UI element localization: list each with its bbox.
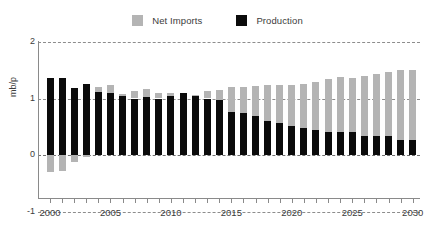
x-tick-2007 [135,198,136,203]
bar-column [349,41,356,211]
bar-segment-production [397,140,404,155]
bar-segment-net-imports [325,79,332,132]
bar-column [312,41,319,211]
bar-segment-production [337,132,344,155]
chart-canvas: Net Imports Production mb/p 210-1 200020… [0,0,435,225]
x-tick-2008 [147,198,148,203]
bar-segment-production [47,78,54,155]
x-tick-label-2005: 2005 [100,207,121,218]
bar-segment-net-imports [264,85,271,121]
legend-label-net-imports: Net Imports [152,15,202,26]
bar-column [325,41,332,211]
legend-swatch-net-imports [132,15,143,26]
x-tick-2001 [62,198,63,203]
bar-segment-production [216,100,223,155]
legend-entry-net-imports: Net Imports [132,15,202,26]
bar-segment-production [167,96,174,155]
bar-column [107,41,114,211]
bar-segment-net-imports [312,82,319,130]
x-tick-2002 [74,198,75,203]
bar-series-group [38,41,420,211]
chart-legend: Net Imports Production [0,10,435,30]
bar-segment-production [325,132,332,155]
bar-segment-net-imports [143,89,150,97]
bar-segment-net-imports [373,74,380,136]
bar-column [288,41,295,211]
bar-column [240,41,247,211]
bar-segment-net-imports [71,155,78,162]
bar-column [385,41,392,211]
bar-segment-net-imports [385,72,392,136]
bar-column [397,41,404,211]
bar-segment-net-imports [119,94,126,96]
bar-segment-net-imports [167,93,174,95]
bar-segment-net-imports [337,77,344,132]
x-tick-2017 [256,198,257,203]
bar-column [167,41,174,211]
x-tick-2029 [401,198,402,203]
bar-column [300,41,307,211]
y-tick-label-2: 2 [24,37,35,46]
bar-segment-net-imports [59,155,66,171]
bar-segment-net-imports [216,90,223,100]
bar-segment-production [204,99,211,156]
bar-segment-production [288,126,295,155]
x-tick-2021 [304,198,305,203]
x-tick-2015 [231,198,232,203]
bar-segment-production [180,93,187,155]
bar-segment-net-imports [288,85,295,126]
bar-segment-production [276,123,283,155]
bar-segment-net-imports [228,87,235,112]
bar-column [155,41,162,211]
bar-segment-net-imports [107,85,114,93]
plot-area: mb/p 210-1 2000200520102015202020252030 [38,41,420,211]
x-tick-2030 [413,198,414,203]
x-tick-2018 [268,198,269,203]
bar-segment-production [192,95,199,155]
bar-segment-production [143,97,150,155]
x-tick-2004 [98,198,99,203]
y-tick-label-1: 1 [24,94,35,103]
bar-segment-net-imports [155,93,162,99]
legend-entry-production: Production [236,15,302,26]
bar-column [228,41,235,211]
bar-segment-production [59,78,66,155]
bar-segment-net-imports [204,91,211,98]
x-tick-2027 [376,198,377,203]
bar-segment-production [300,128,307,155]
x-tick-2016 [243,198,244,203]
x-tick-2013 [207,198,208,203]
x-tick-2023 [328,198,329,203]
bar-segment-production [131,99,138,156]
bar-segment-production [361,136,368,155]
x-tick-2019 [280,198,281,203]
bar-column [276,41,283,211]
legend-label-production: Production [256,15,302,26]
bar-segment-net-imports [409,70,416,139]
bar-column [71,41,78,211]
bar-column [180,41,187,211]
bar-column [252,41,259,211]
bar-segment-production [228,112,235,155]
bar-segment-production [409,140,416,155]
bar-segment-production [155,99,162,156]
bar-segment-net-imports [131,91,138,98]
bar-segment-production [312,130,319,155]
bar-segment-net-imports [252,86,259,117]
bar-column [47,41,54,211]
bar-segment-production [373,136,380,155]
bar-segment-production [107,93,114,155]
bar-segment-production [385,136,392,155]
bar-segment-net-imports [95,87,102,93]
bar-segment-net-imports [300,84,307,128]
bar-column [59,41,66,211]
x-tick-label-2015: 2015 [221,207,242,218]
bar-segment-net-imports [47,155,54,172]
bar-column [337,41,344,211]
x-tick-2026 [364,198,365,203]
x-tick-2012 [195,198,196,203]
bar-segment-net-imports [83,155,90,157]
bar-segment-net-imports [276,85,283,123]
x-tick-label-2030: 2030 [402,207,423,218]
y-tick-label--1: -1 [24,207,35,216]
